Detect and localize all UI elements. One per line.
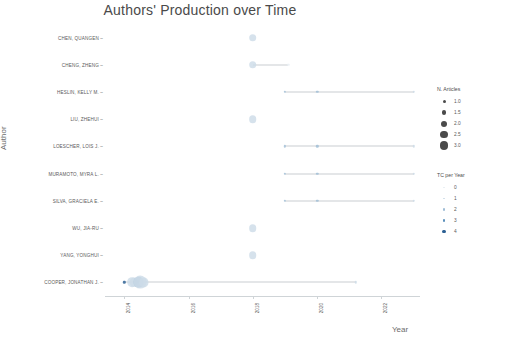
legend-swatch [437,110,451,115]
legend-dot-icon [443,187,444,188]
x-axis-tick-label: 2018 [255,303,260,313]
author-tick-label: SILVA, GRACIELA E. – [53,198,103,203]
legend-row: 0 [437,182,465,193]
data-point[interactable] [249,34,257,42]
legend-n-articles: N. Articles 1.01.52.02.53.0 [437,86,461,151]
legend-dot-icon [441,121,447,127]
legend-label: 1.5 [454,110,461,115]
legend-swatch [437,208,451,210]
data-point[interactable] [249,61,257,69]
series-line [285,92,414,93]
legend-swatch [437,187,451,188]
x-axis-line [105,296,420,297]
author-tick-label: LOESCHER, LOIS J. – [53,144,103,149]
legend-tc-per-year-rows: 01234 [437,182,465,237]
data-point[interactable] [412,91,414,93]
plot-area [105,24,420,296]
legend-label: 3.0 [454,143,461,148]
legend-row: 1 [437,193,465,204]
legend-dot-icon [442,110,447,115]
data-point[interactable] [249,115,257,123]
author-tick-label: MURAMOTO, MYRA L. – [48,171,103,176]
author-tick-label: HESLIN, KELLY M. – [57,90,103,95]
page-title: Authors' Production over Time [0,2,400,18]
legend-label: 4 [454,229,457,234]
series-line [285,200,414,201]
legend-label: 1.0 [454,99,461,104]
legend-tc-per-year-title: TC per Year [437,172,465,178]
legend-row: 1.0 [437,96,461,107]
legend-tc-per-year: TC per Year 01234 [437,172,465,237]
legend-dot-icon [440,141,449,150]
legend-n-articles-rows: 1.01.52.02.53.0 [437,96,461,151]
x-axis-tick [189,296,190,299]
author-tick-label: YANG, YONGHUI – [60,253,103,258]
author-tick-label: CHENG, ZHENG – [62,62,103,67]
legend-label: 2 [454,207,457,212]
author-tick-label: LIU, ZHEHUI – [70,117,103,122]
legend-dot-icon [440,131,447,138]
data-point[interactable] [249,224,257,232]
x-axis-tick-label: 2022 [383,303,388,313]
legend-swatch [437,121,451,127]
data-point[interactable] [412,145,414,147]
legend-dot-icon [443,219,446,222]
data-point[interactable] [412,172,414,174]
legend-swatch [437,141,451,150]
data-point[interactable] [249,251,257,259]
legend-row: 3 [437,215,465,226]
legend-row: 2.5 [437,129,461,140]
legend-row: 2 [437,204,465,215]
data-point[interactable] [412,200,414,202]
author-tick-label: COOPER, JONATHAN J. – [44,280,103,285]
legend-label: 2.5 [454,132,461,137]
legend-row: 3.0 [437,140,461,151]
x-axis-tick [253,296,254,299]
legend-row: 2.0 [437,118,461,129]
legend-dot-icon [443,100,446,103]
author-tick-label: CHEN, QUANGEN – [58,35,103,40]
legend-swatch [437,131,451,138]
legend-swatch [437,100,451,103]
legend-n-articles-title: N. Articles [437,86,461,92]
series-line [285,173,414,174]
x-axis-tick-label: 2020 [319,303,324,313]
legend-dot-icon [443,208,445,210]
author-axis-ticks: CHEN, QUANGEN –CHENG, ZHENG –HESLIN, KEL… [0,24,103,296]
series-line [253,64,288,65]
legend-dot-icon [442,230,445,233]
data-point[interactable] [287,64,289,66]
x-axis-tick [124,296,125,299]
x-axis-tick-label: 2014 [126,303,131,313]
data-point[interactable] [134,276,147,289]
legend-dot-icon [443,198,445,200]
legend-label: 2.0 [454,121,461,126]
legend-row: 1.5 [437,107,461,118]
legend-swatch [437,219,451,222]
legend-swatch [437,198,451,200]
authors-production-chart: Authors' Production over Time Author Yea… [0,0,507,345]
legend-swatch [437,230,451,233]
legend-label: 0 [454,185,457,190]
legend-label: 1 [454,196,457,201]
legend-label: 3 [454,218,457,223]
series-line [285,146,414,147]
legend-row: 4 [437,226,465,237]
x-axis-tick-label: 2016 [191,303,196,313]
x-axis-tick [381,296,382,299]
x-axis-label: Year [392,325,408,334]
author-tick-label: WU, JIA-RU – [72,226,103,231]
x-axis-tick [317,296,318,299]
data-point[interactable] [355,281,357,283]
series-line [124,282,355,283]
